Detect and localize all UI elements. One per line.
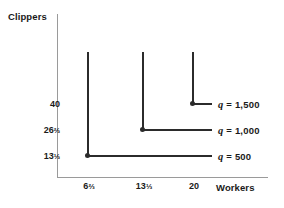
x-tick-20-whole: 20: [189, 181, 199, 191]
y-tick-26-whole: 26: [44, 125, 54, 135]
isoquant-1000-vertical-segment: [142, 52, 144, 130]
isoquant-500-horizontal-segment: [87, 155, 212, 157]
isoquant-500-label-q: q: [218, 151, 223, 162]
x-axis-line: [57, 177, 268, 178]
x-axis-title: Workers: [216, 182, 255, 193]
x-tick-label-13-1-3: 13⅓: [136, 181, 152, 191]
x-tick-13-frac: ⅓: [146, 182, 152, 191]
isoquant-500-vertical-segment: [87, 52, 89, 156]
isoquant-500-label-value: 500: [235, 151, 251, 162]
y-tick-26-frac: ⅔: [54, 126, 60, 135]
x-tick-13-whole: 13: [136, 181, 146, 191]
y-tick-40-whole: 40: [50, 99, 60, 109]
isoquant-1500-vertical-segment: [192, 52, 194, 104]
x-tick-6-frac: ⅔: [88, 182, 94, 191]
isoquant-1500-corner-point: [190, 101, 195, 106]
y-tick-label-26-2-3: 26⅔: [44, 125, 60, 135]
isoquant-500-corner-point: [85, 153, 90, 158]
isoquant-1500-label: q = 1,500: [218, 99, 260, 110]
x-tick-label-6-2-3: 6⅔: [83, 181, 94, 191]
isoquant-1500-label-eq: =: [226, 99, 232, 110]
y-tick-label-40: 40: [50, 99, 60, 109]
isoquant-1000-label: q = 1,000: [218, 125, 260, 136]
y-tick-13-frac: ⅓: [54, 152, 60, 161]
isoquant-1000-horizontal-segment: [142, 129, 212, 131]
isoquant-1000-label-eq: =: [226, 125, 232, 136]
isoquant-500-label-eq: =: [226, 151, 232, 162]
x-tick-label-20: 20: [189, 181, 199, 191]
isoquant-1500-horizontal-segment: [192, 103, 212, 105]
isoquant-chart: Clippers Workers 40 26⅔ 13⅓ 6⅔ 13⅓ 20 q …: [0, 0, 284, 208]
isoquant-1500-label-q: q: [218, 99, 223, 110]
y-tick-13-whole: 13: [44, 151, 54, 161]
y-axis-title: Clippers: [8, 11, 47, 22]
isoquant-1500-label-value: 1,500: [235, 99, 260, 110]
isoquant-1000-label-value: 1,000: [235, 125, 260, 136]
y-tick-label-13-1-3: 13⅓: [44, 151, 60, 161]
isoquant-500-label: q = 500: [218, 151, 251, 162]
isoquant-1000-corner-point: [140, 127, 145, 132]
isoquant-1000-label-q: q: [218, 125, 223, 136]
